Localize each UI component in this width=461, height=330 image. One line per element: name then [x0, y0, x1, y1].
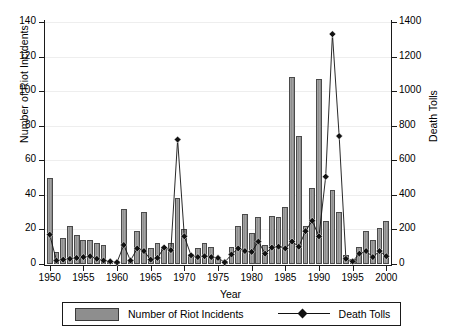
- y-tick-right-label: 400: [399, 188, 439, 199]
- diamond-marker: [316, 233, 323, 240]
- diamond-marker: [60, 256, 67, 263]
- diamond-marker: [322, 173, 329, 180]
- diamond-marker: [201, 253, 208, 260]
- y-tick: [39, 264, 44, 265]
- y-tick: [39, 229, 44, 230]
- y-tick-right-label: 1400: [399, 15, 439, 26]
- x-tick-label: 2000: [365, 272, 407, 283]
- x-tick: [319, 266, 320, 271]
- death-tolls-line: [45, 22, 391, 264]
- x-tick: [50, 266, 51, 271]
- diamond-marker: [208, 254, 215, 261]
- y-tick-right-label: 600: [399, 153, 439, 164]
- x-tick: [184, 266, 185, 271]
- x-tick: [353, 266, 354, 271]
- diamond-marker: [194, 254, 201, 261]
- y-tick: [39, 91, 44, 92]
- y-tick-right: [392, 57, 397, 58]
- diamond-marker: [154, 255, 161, 262]
- y-tick-label: 120: [2, 50, 36, 61]
- y-tick: [39, 195, 44, 196]
- diamond-marker: [174, 136, 181, 143]
- diamond-marker: [255, 238, 262, 245]
- y-tick-right-label: 1200: [399, 50, 439, 61]
- diamond-marker: [127, 257, 134, 264]
- x-tick: [151, 266, 152, 271]
- diamond-marker: [309, 217, 316, 224]
- diamond-marker: [215, 255, 222, 262]
- y-tick-label: 0: [2, 257, 36, 268]
- diamond-marker: [248, 249, 255, 256]
- x-tick: [252, 266, 253, 271]
- y-tick-right-label: 1000: [399, 84, 439, 95]
- diamond-marker: [242, 248, 249, 255]
- x-tick: [285, 266, 286, 271]
- y-tick-right: [392, 22, 397, 23]
- diamond-marker: [73, 255, 80, 262]
- y-tick-right: [392, 229, 397, 230]
- diamond-marker: [188, 252, 195, 259]
- y-tick-label: 140: [2, 15, 36, 26]
- diamond-marker: [46, 231, 53, 238]
- chart-legend: Number of Riot Incidents Death Tolls: [62, 302, 401, 326]
- diamond-marker: [67, 255, 74, 262]
- x-axis-title: Year: [0, 288, 461, 300]
- diamond-marker: [107, 258, 114, 265]
- y-tick-right: [392, 126, 397, 127]
- y-tick: [39, 160, 44, 161]
- diamond-marker: [80, 254, 87, 261]
- y-tick-right: [392, 91, 397, 92]
- legend-item-death-tolls: Death Tolls: [244, 308, 391, 320]
- y-tick-right-label: 200: [399, 222, 439, 233]
- diamond-marker: [275, 243, 282, 250]
- diamond-marker: [93, 255, 100, 262]
- legend-label-riot-incidents: Number of Riot Incidents: [128, 308, 244, 320]
- diamond-marker: [100, 257, 107, 264]
- y-tick-label: 80: [2, 119, 36, 130]
- diamond-marker: [120, 242, 127, 249]
- diamond-marker: [134, 245, 141, 252]
- y-tick-right: [392, 195, 397, 196]
- y-tick-right: [392, 264, 397, 265]
- y-tick: [39, 57, 44, 58]
- diamond-marker: [87, 253, 94, 260]
- death-tolls-polyline: [50, 34, 387, 262]
- y-tick-label: 20: [2, 222, 36, 233]
- diamond-marker: [53, 257, 60, 264]
- diamond-marker: [161, 244, 168, 251]
- y-tick-label: 40: [2, 188, 36, 199]
- diamond-line-icon: [278, 309, 330, 319]
- x-tick: [83, 266, 84, 271]
- y-tick-label: 100: [2, 84, 36, 95]
- y-tick-right-label: 800: [399, 119, 439, 130]
- y-tick: [39, 126, 44, 127]
- y-tick-label: 60: [2, 153, 36, 164]
- x-tick: [117, 266, 118, 271]
- legend-item-riot-incidents: Number of Riot Incidents: [63, 308, 244, 321]
- legend-label-death-tolls: Death Tolls: [339, 308, 391, 320]
- diamond-marker: [342, 255, 349, 262]
- y-tick: [39, 22, 44, 23]
- y-tick-right-label: 0: [399, 257, 439, 268]
- y-tick-right: [392, 160, 397, 161]
- diamond-marker: [336, 133, 343, 140]
- chart-figure: Number of Riot Incidents Death Tolls Yea…: [0, 0, 461, 330]
- bar-swatch-icon: [75, 308, 119, 321]
- diamond-marker: [167, 247, 174, 254]
- diamond-marker: [329, 31, 336, 38]
- diamond-marker: [302, 228, 309, 235]
- x-tick: [386, 266, 387, 271]
- diamond-marker: [181, 233, 188, 240]
- x-tick: [218, 266, 219, 271]
